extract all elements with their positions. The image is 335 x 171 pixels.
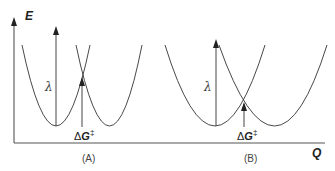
panel-b-left-parabola	[165, 45, 265, 126]
panel-b-barrier-arrow	[241, 102, 247, 127]
panel-b-right-parabola	[219, 45, 327, 126]
panel-a-label: (A)	[82, 154, 95, 164]
double-dagger-symbol: ‡	[90, 128, 94, 137]
panel-b-lambda-arrow	[213, 39, 219, 126]
panel-b-label: (B)	[244, 154, 257, 164]
double-dagger-symbol: ‡	[253, 128, 257, 137]
panel-a-barrier-label: ΔG‡	[74, 129, 94, 142]
panel-a-lambda-label: λ	[45, 81, 53, 93]
panel-a-barrier-arrow	[79, 77, 85, 127]
panel-b-lambda-label: λ	[204, 81, 212, 93]
x-axis-label: Q	[312, 147, 321, 159]
y-axis	[11, 17, 17, 143]
g-symbol: G	[244, 130, 253, 142]
panel-a-lambda-arrow	[53, 26, 59, 126]
panel-a-right-parabola	[76, 45, 142, 126]
g-symbol: G	[81, 130, 90, 142]
panel-b-barrier-label: ΔG‡	[237, 129, 257, 142]
y-axis-label: E	[25, 10, 33, 22]
panel-b-curves	[165, 45, 327, 126]
